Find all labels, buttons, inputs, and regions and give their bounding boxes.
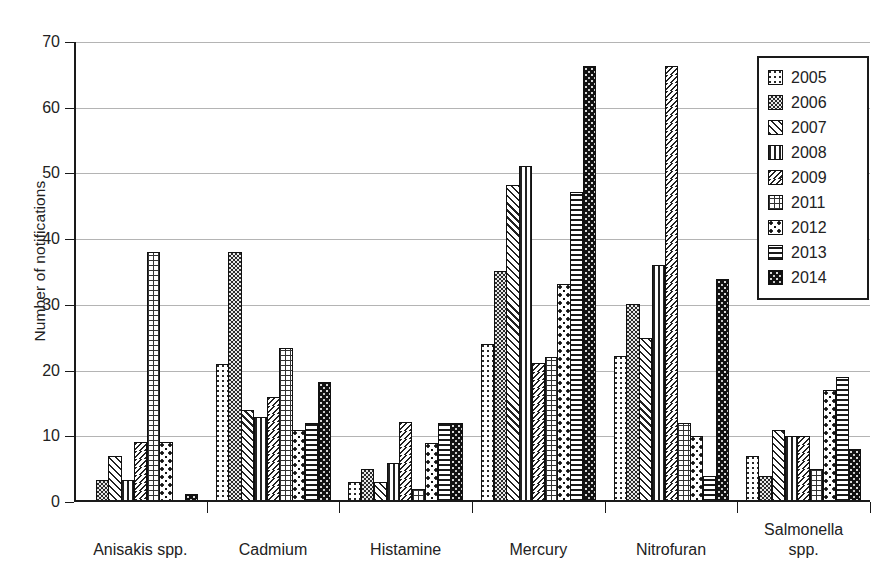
y-axis-tick (65, 502, 74, 503)
legend-item-label: 2013 (791, 245, 827, 261)
x-axis-tick (605, 502, 606, 513)
legend-swatch-icon (768, 220, 783, 235)
legend-item-2012[interactable]: 2012 (768, 215, 859, 240)
x-axis-label: Histamine (370, 540, 441, 560)
legend-item-2013[interactable]: 2013 (768, 240, 859, 265)
y-axis-tick-label: 40 (42, 230, 60, 248)
y-axis-tick (65, 108, 74, 109)
y-axis-tick-label: 20 (42, 362, 60, 380)
legend-item-label: 2011 (791, 195, 825, 211)
y-axis-tick (65, 305, 74, 306)
legend-item-label: 2012 (791, 220, 827, 236)
y-axis-tick (65, 239, 74, 240)
x-axis-tick (339, 502, 340, 513)
chart-legend: 200520062007200820092011201220132014 (757, 56, 869, 300)
x-axis-tick (207, 502, 208, 513)
x-axis-tick (737, 502, 738, 513)
legend-item-2009[interactable]: 2009 (768, 165, 859, 190)
legend-item-label: 2005 (791, 70, 827, 86)
x-axis-label: Salmonella spp. (764, 520, 843, 560)
legend-item-2014[interactable]: 2014 (768, 265, 859, 290)
legend-swatch-icon (768, 195, 783, 210)
legend-item-2005[interactable]: 2005 (768, 65, 859, 90)
y-axis-tick-label: 30 (42, 296, 60, 314)
y-axis-tick (65, 371, 74, 372)
y-axis-tick-label: 0 (51, 493, 60, 511)
legend-item-2008[interactable]: 2008 (768, 140, 859, 165)
y-axis-tick (65, 436, 74, 437)
x-axis-tick (472, 502, 473, 513)
legend-swatch-icon (768, 120, 783, 135)
y-axis-tick-label: 60 (42, 99, 60, 117)
legend-item-label: 2007 (791, 120, 827, 136)
y-axis-tick (65, 42, 74, 43)
x-axis-label: Mercury (509, 540, 567, 560)
plot-frame (74, 42, 870, 502)
y-axis-tick-label: 10 (42, 427, 60, 445)
plot-area: 010203040506070 Anisakis spp.CadmiumHist… (74, 42, 870, 502)
legend-item-2007[interactable]: 2007 (768, 115, 859, 140)
legend-swatch-icon (768, 95, 783, 110)
x-axis-label: Anisakis spp. (93, 540, 187, 560)
x-axis-tick (870, 502, 871, 513)
legend-item-2006[interactable]: 2006 (768, 90, 859, 115)
legend-swatch-icon (768, 170, 783, 185)
bar-chart: Number of notifications 010203040506070 … (0, 0, 887, 574)
legend-swatch-icon (768, 145, 783, 160)
x-axis-label: Nitrofuran (636, 540, 706, 560)
legend-swatch-icon (768, 245, 783, 260)
x-axis-label: Cadmium (239, 540, 307, 560)
legend-swatch-icon (768, 270, 783, 285)
legend-swatch-icon (768, 70, 783, 85)
legend-item-label: 2008 (791, 145, 827, 161)
y-axis-tick-label: 70 (42, 33, 60, 51)
y-axis-tick (65, 173, 74, 174)
y-axis-tick-label: 50 (42, 164, 60, 182)
legend-item-label: 2009 (791, 170, 827, 186)
legend-item-label: 2014 (791, 270, 827, 286)
legend-item-2011[interactable]: 2011 (768, 190, 859, 215)
legend-item-label: 2006 (791, 95, 827, 111)
